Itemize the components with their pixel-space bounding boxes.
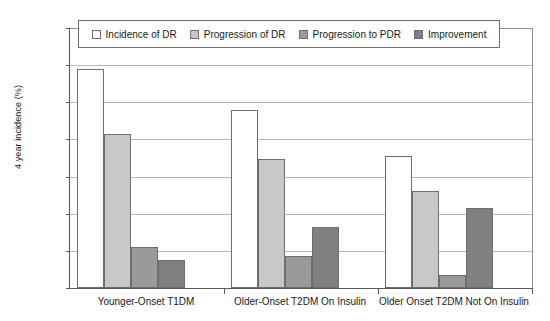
- x-tick-2: [532, 288, 533, 294]
- gridline-40: [70, 139, 532, 140]
- bar-1-3: [312, 227, 339, 288]
- y-tick-mark-70: [66, 28, 70, 29]
- bar-0-2: [131, 247, 158, 288]
- legend-swatch-icon-2: [299, 30, 308, 39]
- x-tick-1: [378, 288, 379, 294]
- gridline-20: [70, 214, 532, 215]
- y-tick-mark-10: [66, 251, 70, 252]
- legend-item-0: Incidence of DR: [92, 29, 177, 40]
- gridline-30: [70, 177, 532, 178]
- legend-swatch-icon-0: [92, 30, 101, 39]
- bar-2-0: [385, 156, 412, 288]
- bar-chart: 4 year incidence (%) 010203040506070 Inc…: [0, 0, 550, 321]
- chart-legend: Incidence of DRProgression of DRProgress…: [78, 20, 500, 48]
- bar-1-0: [231, 110, 258, 288]
- gridline-50: [70, 102, 532, 103]
- gridline-60: [70, 65, 532, 66]
- legend-label-3: Improvement: [428, 29, 486, 40]
- legend-item-3: Improvement: [414, 29, 486, 40]
- legend-label-0: Incidence of DR: [106, 29, 177, 40]
- bar-1-2: [285, 256, 312, 288]
- bar-2-3: [466, 208, 493, 288]
- y-tick-mark-30: [66, 177, 70, 178]
- plot-area: 010203040506070: [69, 28, 533, 289]
- bar-0-3: [158, 260, 185, 288]
- bar-0-1: [104, 134, 131, 288]
- y-tick-mark-0: [66, 288, 70, 289]
- bar-0-0: [77, 69, 104, 288]
- x-tick-0: [224, 288, 225, 294]
- legend-label-2: Progression to PDR: [313, 29, 401, 40]
- x-axis-label-0: Younger-Onset T1DM: [69, 296, 223, 307]
- x-axis-label-1: Older-Onset T2DM On Insulin: [223, 296, 377, 307]
- bar-1-1: [258, 159, 285, 288]
- bar-2-2: [439, 275, 466, 288]
- y-tick-mark-20: [66, 214, 70, 215]
- legend-swatch-icon-1: [190, 30, 199, 39]
- legend-item-1: Progression of DR: [190, 29, 286, 40]
- legend-label-1: Progression of DR: [204, 29, 286, 40]
- legend-swatch-icon-3: [414, 30, 423, 39]
- y-axis-title: 4 year incidence (%): [13, 47, 23, 207]
- x-axis-label-2: Older Onset T2DM Not On Insulin: [377, 296, 531, 307]
- bar-2-1: [412, 191, 439, 288]
- y-tick-mark-50: [66, 102, 70, 103]
- legend-item-2: Progression to PDR: [299, 29, 401, 40]
- y-tick-mark-40: [66, 139, 70, 140]
- y-tick-mark-60: [66, 65, 70, 66]
